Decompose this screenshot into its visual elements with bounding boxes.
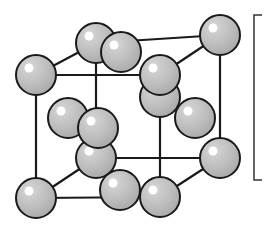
atom-sphere-icon [16, 178, 56, 218]
atom-highlight [25, 64, 34, 73]
atom-sphere-icon [140, 55, 180, 95]
atom-highlight [149, 186, 158, 195]
atom-highlight [149, 64, 158, 73]
atom-face-center-top [101, 32, 141, 72]
atom-corner-front-top-left [16, 55, 56, 95]
atom-sphere-icon [78, 108, 118, 148]
atom-highlight [184, 107, 193, 116]
atom-corner-front-top-right [140, 55, 180, 95]
atom-sphere-icon [16, 55, 56, 95]
atom-sphere-icon [200, 138, 240, 178]
atom-face-center-front [78, 108, 118, 148]
dimension-bracket [254, 15, 262, 180]
atom-sphere-icon [175, 98, 215, 138]
atom-highlight [109, 179, 118, 188]
atom-highlight [85, 32, 94, 41]
atom-sphere-icon [100, 170, 140, 210]
atom-corner-front-bottom-right [140, 177, 180, 217]
bracket-line [254, 15, 262, 180]
atom-corner-front-bottom-left [16, 178, 56, 218]
atom-sphere-icon [200, 15, 240, 55]
atom-highlight [209, 147, 218, 156]
atom-sphere-icon [140, 177, 180, 217]
atom-corner-back-top-right [200, 15, 240, 55]
lattice-atoms [16, 15, 240, 218]
atom-highlight [25, 187, 34, 196]
atom-corner-back-bottom-right [200, 138, 240, 178]
atom-face-center-bottom [100, 170, 140, 210]
atom-highlight [209, 24, 218, 33]
fcc-unit-cell-diagram [0, 0, 266, 235]
atom-highlight [110, 41, 119, 50]
atom-sphere-icon [101, 32, 141, 72]
atom-highlight [87, 117, 96, 126]
lattice-canvas [0, 0, 266, 235]
atom-highlight [57, 107, 66, 116]
atom-face-center-right [175, 98, 215, 138]
